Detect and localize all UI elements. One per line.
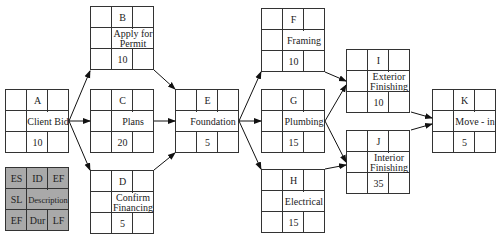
node-description: Move - in (453, 111, 497, 132)
legend-key: ES ID EF SL Description EF Dur LF (5, 167, 69, 231)
node-e: E Foundation 5 (175, 89, 239, 153)
node-d: D ConfirmFinancing 5 (90, 170, 154, 234)
description-line-2: Finishing (370, 162, 408, 173)
node-duration: 5 (454, 132, 475, 153)
edge-f-i (325, 72, 346, 81)
description-line-2: Permit (120, 38, 147, 49)
legend-ef-top: EF (48, 168, 69, 189)
edge-d-e (154, 153, 175, 170)
description-text: Framing (287, 36, 321, 46)
legend-dur: Dur (27, 210, 48, 231)
node-description: ExteriorFinishing (367, 71, 411, 92)
node-duration: 10 (283, 51, 304, 72)
edge-b-e (154, 70, 175, 89)
node-id: B (112, 7, 133, 28)
node-k: K Move - in 5 (432, 89, 496, 153)
description-text: Plans (122, 117, 144, 127)
edge-e-h (239, 121, 261, 169)
legend-es: ES (6, 168, 27, 189)
edge-e-f (239, 72, 261, 121)
legend-lf: LF (48, 210, 69, 231)
node-duration: 5 (112, 213, 133, 234)
node-id: C (112, 90, 133, 111)
description-text: Move - in (455, 117, 494, 127)
description-text: Foundation (190, 117, 236, 127)
legend-id: ID (27, 168, 48, 189)
node-id: H (283, 170, 304, 191)
node-id: G (283, 90, 304, 111)
node-duration: 15 (283, 132, 304, 153)
edge-a-b (69, 71, 90, 121)
node-j: J InteriorFinishing 35 (346, 130, 410, 194)
node-a: A Client Bid 10 (5, 89, 69, 153)
node-id: I (368, 50, 389, 71)
legend-description: Description (26, 189, 70, 210)
edge-i-k (411, 112, 432, 118)
node-description: ConfirmFinancing (111, 192, 155, 213)
description-text: Client Bid (27, 117, 68, 127)
dependency-arrows (0, 0, 504, 241)
node-h: H Electrical 15 (261, 169, 325, 233)
edge-a-d (69, 121, 90, 170)
node-i: I ExteriorFinishing 10 (346, 49, 410, 113)
node-duration: 10 (112, 49, 133, 70)
edge-h-j (325, 165, 346, 169)
node-f: F Framing 10 (261, 8, 325, 72)
edge-j-k (411, 124, 432, 130)
node-description: Client Bid (26, 111, 70, 132)
node-duration: 10 (27, 132, 48, 153)
node-description: Apply forPermit (111, 28, 155, 49)
node-id: K (454, 90, 475, 111)
node-description: Plumbing (282, 111, 326, 132)
node-c: C Plans 20 (90, 89, 154, 153)
node-duration: 35 (368, 173, 389, 194)
node-description: InteriorFinishing (367, 152, 411, 173)
node-duration: 15 (283, 212, 304, 233)
description-text: Plumbing (285, 117, 324, 127)
node-description: Plans (111, 111, 155, 132)
node-id: E (197, 90, 218, 111)
node-description: Electrical (282, 191, 326, 212)
node-id: J (368, 131, 389, 152)
edge-g-i (325, 85, 346, 121)
node-duration: 10 (368, 92, 389, 113)
node-duration: 5 (197, 132, 218, 153)
description-line-2: Financing (113, 202, 153, 213)
legend-ef-bottom: EF (6, 210, 27, 231)
node-id: A (27, 90, 48, 111)
description-line-2: Finishing (370, 81, 408, 92)
node-description: Foundation (186, 111, 240, 132)
node-description: Framing (282, 30, 326, 51)
node-id: F (283, 9, 304, 30)
legend-sl: SL (6, 189, 27, 210)
node-id: D (112, 171, 133, 192)
description-text: Electrical (285, 197, 323, 207)
node-g: G Plumbing 15 (261, 89, 325, 153)
node-b: B Apply forPermit 10 (90, 6, 154, 70)
node-duration: 20 (112, 132, 133, 153)
edge-g-j (325, 121, 346, 162)
